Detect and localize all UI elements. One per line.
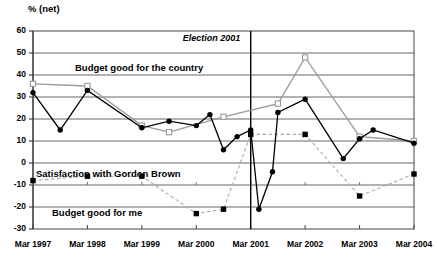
data-point-marker bbox=[303, 55, 308, 60]
x-tick-label: Mar 2001 bbox=[223, 240, 279, 249]
data-point-marker bbox=[275, 110, 280, 115]
data-point-marker bbox=[139, 125, 144, 130]
data-point-marker bbox=[194, 123, 199, 128]
data-point-marker bbox=[256, 207, 261, 212]
series-label: Budget good for the country bbox=[75, 62, 203, 73]
data-point-marker bbox=[221, 207, 226, 212]
x-tick-label: Mar 2000 bbox=[168, 240, 224, 249]
y-tick-label: -30 bbox=[0, 224, 26, 233]
data-point-marker bbox=[194, 211, 199, 216]
data-point-marker bbox=[30, 81, 35, 86]
y-tick-label: 50 bbox=[0, 48, 26, 57]
data-point-marker bbox=[411, 171, 416, 176]
data-point-marker bbox=[207, 112, 212, 117]
data-point-marker bbox=[270, 169, 275, 174]
data-series-layer bbox=[30, 55, 416, 216]
data-point-marker bbox=[166, 119, 171, 124]
data-point-marker bbox=[275, 101, 280, 106]
data-point-marker bbox=[30, 178, 35, 183]
y-tick-label: 0 bbox=[0, 158, 26, 167]
y-tick-label: 60 bbox=[0, 26, 26, 35]
plot-frame bbox=[29, 31, 414, 229]
series-label: Satisfaction with Gordon Brown bbox=[36, 168, 181, 179]
data-point-marker bbox=[58, 127, 63, 132]
data-point-marker bbox=[85, 88, 90, 93]
y-tick-label: 30 bbox=[0, 92, 26, 101]
data-point-marker bbox=[248, 127, 253, 132]
election-annotation: Election 2001 bbox=[183, 33, 241, 43]
y-tick-label: 10 bbox=[0, 136, 26, 145]
data-point-marker bbox=[302, 97, 307, 102]
data-point-marker bbox=[221, 114, 226, 119]
data-point-marker bbox=[357, 193, 362, 198]
x-tick-marks bbox=[33, 182, 414, 229]
data-point-marker bbox=[357, 136, 362, 141]
data-point-marker bbox=[370, 127, 375, 132]
x-tick-label: Mar 2004 bbox=[386, 240, 437, 249]
data-point-marker bbox=[221, 147, 226, 152]
gridlines-group bbox=[33, 53, 414, 207]
x-tick-label: Mar 1997 bbox=[5, 240, 61, 249]
data-point-marker bbox=[302, 132, 307, 137]
data-point-marker bbox=[234, 134, 239, 139]
data-point-marker bbox=[341, 156, 346, 161]
x-tick-label: Mar 1999 bbox=[114, 240, 170, 249]
y-tick-label: 20 bbox=[0, 114, 26, 123]
data-point-marker bbox=[30, 90, 35, 95]
x-tick-label: Mar 1998 bbox=[59, 240, 115, 249]
y-tick-label: -10 bbox=[0, 180, 26, 189]
x-tick-label: Mar 2003 bbox=[332, 240, 388, 249]
x-tick-label: Mar 2002 bbox=[277, 240, 333, 249]
data-point-marker bbox=[166, 130, 171, 135]
plot-border bbox=[33, 31, 414, 229]
y-tick-label: -20 bbox=[0, 202, 26, 211]
data-point-marker bbox=[411, 141, 416, 146]
y-tick-label: 40 bbox=[0, 70, 26, 79]
series-label: Budget good for me bbox=[52, 207, 142, 218]
